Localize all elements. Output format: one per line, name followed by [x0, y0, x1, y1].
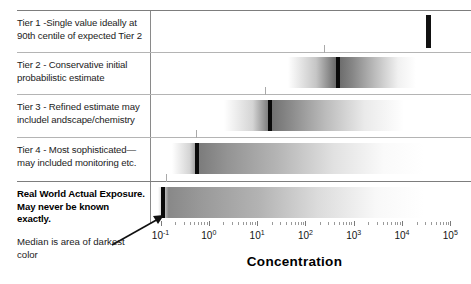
row-label-tier-4: Tier 4 - Most sophisticated—may included… [17, 144, 145, 169]
axis-minor-tick [295, 222, 296, 225]
axis-minor-tick [175, 222, 176, 225]
axis-minor-tick [223, 222, 224, 225]
axis-major-tick-5 [450, 221, 451, 226]
axis-tick-label-5: 105 [443, 230, 458, 241]
axis-minor-tick [198, 222, 199, 225]
axis-minor-tick [368, 222, 369, 225]
row-label-tier-2: Tier 2 - Conservative initial probabilis… [17, 59, 145, 84]
axis-minor-tick [377, 222, 378, 225]
axis-minor-tick [207, 222, 208, 225]
axis-minor-tick [397, 222, 398, 225]
axis-major-tick-1 [257, 221, 258, 226]
axis-minor-tick [280, 222, 281, 225]
axis-minor-tick [400, 222, 401, 225]
axis-minor-tick [243, 222, 244, 225]
divider-tick-real [166, 174, 167, 182]
axis-minor-tick [339, 222, 340, 225]
tier-2-median-bar [336, 57, 340, 88]
axis-minor-tick [303, 222, 304, 225]
axis-minor-tick [440, 222, 441, 225]
axis-minor-tick [250, 222, 251, 225]
rule-top [17, 10, 471, 11]
rule-tier1-2 [17, 52, 471, 53]
axis-minor-tick [298, 222, 299, 225]
axis-minor-tick [286, 222, 287, 225]
axis-minor-tick [238, 222, 239, 225]
axis-minor-tick [443, 222, 444, 225]
axis-minor-tick [436, 222, 437, 225]
rule-tier2-3 [17, 94, 471, 95]
axis-minor-tick [328, 222, 329, 225]
axis-minor-tick [425, 222, 426, 225]
axis-minor-tick [343, 222, 344, 225]
axis-minor-tick [391, 222, 392, 225]
axis-minor-tick [349, 222, 350, 225]
divider-tick-tier4 [196, 130, 197, 138]
axis-tick-label-3: 103 [346, 230, 361, 241]
tier-2-distribution-band [288, 57, 416, 88]
axis-major-tick-2 [305, 221, 306, 226]
tier-4-median-bar [195, 143, 199, 174]
axis-minor-tick [446, 222, 447, 225]
axis-minor-tick [291, 222, 292, 225]
axis-tick-label--1: 10-1 [152, 230, 169, 241]
axis-major-tick-0 [209, 221, 210, 226]
axis-minor-tick [201, 222, 202, 225]
vertical-axis-line [150, 10, 151, 224]
axis-major-tick-4 [402, 221, 403, 226]
axis-minor-tick [204, 222, 205, 225]
axis-minor-tick [232, 222, 233, 225]
axis-tick-label-0: 100 [201, 230, 216, 241]
rule-tier4-real [17, 181, 471, 182]
axis-minor-tick [417, 222, 418, 225]
axis-minor-tick [334, 222, 335, 225]
axis-major-tick--1 [161, 221, 162, 226]
tier-1-value-bar [426, 15, 431, 48]
real-world-distribution-band [158, 187, 424, 218]
axis-major-tick-3 [354, 221, 355, 226]
axis-minor-tick [252, 222, 253, 225]
axis-minor-tick [383, 222, 384, 225]
axis-tick-label-4: 104 [394, 230, 409, 241]
axis-tick-label-1: 101 [250, 230, 265, 241]
axis-minor-tick [387, 222, 388, 225]
rule-tier3-4 [17, 137, 471, 138]
axis-minor-tick [320, 222, 321, 225]
axis-minor-tick [246, 222, 247, 225]
row-label-tier-3: Tier 3 - Refined estimate may includel a… [17, 101, 145, 126]
tiered-exposure-assessment-figure: Tier 1 -Single value ideally at 90th cen… [0, 0, 471, 284]
axis-minor-tick [346, 222, 347, 225]
divider-tick-tier2 [324, 45, 325, 53]
axis-minor-tick [351, 222, 352, 225]
axis-minor-tick [448, 222, 449, 225]
axis-minor-tick [255, 222, 256, 225]
axis-minor-tick [395, 222, 396, 225]
row-label-tier-1: Tier 1 -Single value ideally at 90th cen… [17, 17, 145, 42]
tier-3-median-bar [268, 100, 272, 131]
axis-minor-tick [190, 222, 191, 225]
divider-tick-tier3 [265, 87, 266, 95]
tier-3-distribution-band [224, 100, 404, 131]
axis-minor-tick [194, 222, 195, 225]
axis-minor-tick [431, 222, 432, 225]
tier-4-distribution-band [172, 143, 424, 174]
axis-minor-tick [184, 222, 185, 225]
median-annotation-text: Median is area of darkest color [17, 236, 137, 261]
axis-tick-label-2: 102 [298, 230, 313, 241]
axis-minor-tick [272, 222, 273, 225]
axis-minor-tick [301, 222, 302, 225]
